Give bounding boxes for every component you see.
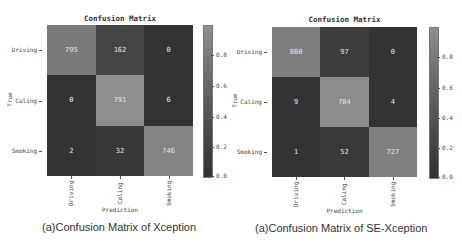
ytick-smoking: Smoking: [2, 147, 42, 154]
colorbar-tick: 0.6: [437, 84, 453, 91]
cell-driving-driving: 795: [47, 25, 96, 75]
x-axis-label: Prediction: [47, 206, 193, 213]
xtick-driving: Driving: [67, 181, 74, 206]
ytick-driving: Driving: [227, 48, 267, 55]
cell-smoking-smoking: 727: [369, 127, 417, 177]
xtick-mark: [344, 177, 345, 180]
ytick-driving: Driving: [2, 46, 42, 53]
xtick-mark: [393, 177, 394, 180]
y-axis-label: True: [6, 92, 13, 106]
cell-driving-caling: 162: [96, 25, 145, 75]
confusion-matrix: 860 97 0 9 784 4 1 52 727: [272, 27, 417, 177]
chart-title: Confusion Matrix: [272, 15, 417, 24]
y-axis-label: True: [231, 93, 238, 107]
colorbar-tick: 0.0: [437, 173, 453, 180]
cell-smoking-driving: 1: [272, 127, 320, 177]
cell-caling-driving: 9: [272, 77, 320, 127]
chart-title: Confusion Matrix: [47, 14, 193, 23]
cell-smoking-driving: 2: [47, 126, 96, 176]
colorbar-tick: 0.6: [211, 82, 227, 89]
cell-caling-caling: 791: [96, 75, 145, 125]
ytick-smoking: Smoking: [227, 148, 267, 155]
cell-driving-smoking: 0: [369, 27, 417, 77]
cell-smoking-caling: 32: [96, 126, 145, 176]
cell-caling-driving: 0: [47, 75, 96, 125]
colorbar: [429, 27, 439, 179]
colorbar-tick: 0.2: [211, 143, 227, 150]
xception-panel: Confusion Matrix 795 162 0 0 791 6 2 32 …: [0, 0, 231, 244]
cell-driving-driving: 860: [272, 27, 320, 77]
xtick-mark: [169, 176, 170, 179]
xtick-smoking: Smoking: [165, 181, 172, 206]
xtick-mark: [296, 177, 297, 180]
cell-smoking-caling: 52: [320, 127, 368, 177]
se-xception-panel: Confusion Matrix 860 97 0 9 784 4 1 52 7…: [231, 0, 462, 244]
cell-driving-smoking: 0: [144, 25, 193, 75]
colorbar-tick: 0.4: [437, 114, 453, 121]
cell-smoking-smoking: 746: [144, 126, 193, 176]
cell-caling-caling: 784: [320, 77, 368, 127]
xtick-caling: Caling: [340, 183, 347, 205]
xtick-mark: [120, 176, 121, 179]
figure-caption: (a)Confusion Matrix of Xception: [42, 221, 196, 233]
figure-caption: (a)Confusion Matrix of SE-Xception: [255, 222, 427, 234]
xtick-mark: [71, 176, 72, 179]
confusion-matrix: 795 162 0 0 791 6 2 32 746: [47, 25, 193, 176]
cell-driving-caling: 97: [320, 27, 368, 77]
colorbar-tick: 0.2: [437, 144, 453, 151]
colorbar-tick: 0.8: [437, 53, 453, 60]
colorbar-tick: 0.8: [211, 51, 227, 58]
colorbar-tick: 0.4: [211, 113, 227, 120]
colorbar: [203, 25, 213, 178]
cell-caling-smoking: 4: [369, 77, 417, 127]
x-axis-label: Prediction: [272, 207, 417, 214]
xtick-caling: Caling: [116, 182, 123, 204]
colorbar-tick: 0.0: [211, 172, 227, 179]
cell-caling-smoking: 6: [144, 75, 193, 125]
xtick-smoking: Smoking: [389, 182, 396, 207]
xtick-driving: Driving: [292, 182, 299, 207]
